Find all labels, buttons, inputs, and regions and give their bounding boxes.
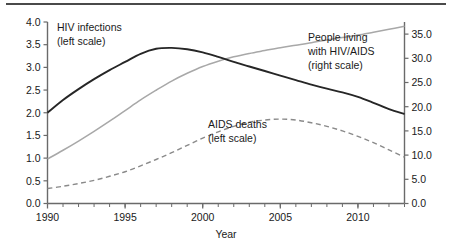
left-axis-tick-label: 2.0	[26, 107, 41, 119]
left-axis-tick-label: 1.0	[26, 152, 41, 164]
right-axis-tick-label: 30.0	[412, 52, 433, 64]
x-axis-title: Year	[215, 228, 237, 240]
left-axis-tick-label: 0.5	[26, 175, 41, 187]
left-axis-tick-label: 2.5	[26, 84, 41, 96]
right-axis-tick-label: 5.0	[412, 173, 427, 185]
left-axis-tick-label: 3.5	[26, 38, 41, 50]
left-axis-tick-label: 1.5	[26, 129, 41, 141]
annotation-people-living-line2: with HIV/AIDS	[307, 45, 375, 57]
annotation-hiv-infections-line2: (left scale)	[57, 35, 105, 47]
x-axis-tick-label: 2000	[191, 211, 215, 223]
series-line-hiv-infections	[48, 48, 405, 114]
left-axis-tick-label: 3.0	[26, 61, 41, 73]
annotation-hiv-infections-line1: HIV infections	[57, 21, 122, 33]
annotation-aids-deaths-line2: (left scale)	[208, 132, 256, 144]
right-axis-tick-label: 0.0	[412, 197, 427, 209]
x-axis-tick-label: 2010	[346, 211, 370, 223]
right-axis-tick-labels: 0.05.010.015.020.025.030.035.0	[412, 28, 433, 209]
right-axis-tick-label: 20.0	[412, 101, 433, 113]
right-axis-tick-label: 25.0	[412, 76, 433, 88]
annotation-people-living-line3: (right scale)	[308, 59, 363, 71]
x-axis-tick-label: 2005	[269, 211, 293, 223]
right-axis-tick-label: 35.0	[412, 28, 433, 40]
chart-figure: 0.00.51.01.52.02.53.03.54.0 0.05.010.015…	[0, 0, 452, 245]
left-axis-tick-label: 4.0	[26, 16, 41, 28]
left-axis-tick-labels: 0.00.51.01.52.02.53.03.54.0	[26, 16, 41, 210]
annotation-aids-deaths-line1: AIDS deaths	[208, 118, 267, 130]
line-chart-svg: 0.00.51.01.52.02.53.03.54.0 0.05.010.015…	[0, 0, 452, 245]
annotation-people-living-line1: People living	[308, 31, 368, 43]
x-axis-tick-labels: 19901995200020052010	[36, 211, 370, 223]
left-axis-tick-label: 0.0	[26, 197, 41, 209]
right-axis-tick-label: 10.0	[412, 149, 433, 161]
x-axis-tick-label: 1995	[113, 211, 137, 223]
right-axis-tick-label: 15.0	[412, 125, 433, 137]
x-axis-tick-label: 1990	[36, 211, 60, 223]
